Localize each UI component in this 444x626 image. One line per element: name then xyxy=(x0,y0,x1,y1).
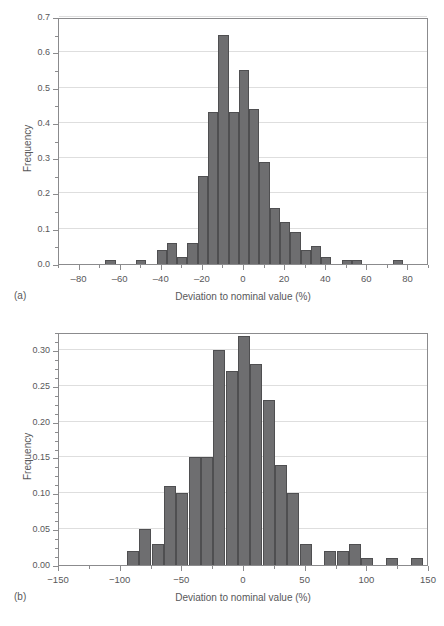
histogram-bar xyxy=(218,35,228,264)
y-tick xyxy=(53,124,58,125)
histogram-bar xyxy=(321,257,331,264)
x-tick xyxy=(120,566,121,571)
histogram-bar xyxy=(157,250,167,264)
x-tick xyxy=(325,265,326,270)
y-tick-label: 0.00 xyxy=(10,561,50,570)
x-tick-label: −100 xyxy=(95,575,145,585)
histogram-bar xyxy=(127,551,139,565)
x-tick xyxy=(428,566,429,571)
y-tick-label: 0.6 xyxy=(10,48,50,57)
y-tick-minor xyxy=(55,521,58,522)
y-tick-minor xyxy=(55,36,58,37)
x-tick-minor xyxy=(58,265,59,268)
histogram-bar xyxy=(337,551,349,565)
histogram-bar xyxy=(259,162,269,264)
y-tick-label: 0.25 xyxy=(10,382,50,391)
histogram-bar xyxy=(239,70,249,264)
x-tick-label: −50 xyxy=(156,575,206,585)
histogram-bar xyxy=(411,558,423,565)
y-tick xyxy=(53,351,58,352)
y-tick-minor xyxy=(55,212,58,213)
x-tick xyxy=(366,265,367,270)
x-tick-minor xyxy=(274,566,275,569)
histogram-bar xyxy=(208,112,218,264)
y-tick-label: 0.10 xyxy=(10,489,50,498)
x-tick xyxy=(407,265,408,270)
histogram-bar xyxy=(386,558,398,565)
y-tick-label: 0.0 xyxy=(10,260,50,269)
x-tick xyxy=(181,566,182,571)
bar-series-b xyxy=(59,334,427,565)
y-tick xyxy=(53,53,58,54)
y-tick-label: 0.05 xyxy=(10,525,50,534)
x-axis-title-b: Deviation to nominal value (%) xyxy=(58,592,428,603)
y-tick-label: 0.2 xyxy=(10,189,50,198)
x-tick-minor xyxy=(151,566,152,569)
x-tick-minor xyxy=(428,265,429,268)
y-tick-minor xyxy=(55,557,58,558)
y-axis-title-a: Frequency xyxy=(22,124,33,171)
histogram-bar xyxy=(198,176,208,264)
histogram-bar xyxy=(164,486,176,565)
histogram-panel-a: 0.00.10.20.30.40.50.60.7 ‒80‒60‒40‒20020… xyxy=(0,0,444,313)
x-tick-label: 50 xyxy=(280,575,330,585)
x-tick-minor xyxy=(397,566,398,569)
y-tick xyxy=(53,530,58,531)
x-tick-label: 150 xyxy=(403,575,444,585)
y-tick-minor xyxy=(55,512,58,513)
x-tick-label: 80 xyxy=(382,274,432,284)
x-tick-minor xyxy=(264,265,265,268)
histogram-bar xyxy=(287,493,299,565)
y-tick-minor xyxy=(55,71,58,72)
figure-sheet: 0.00.10.20.30.40.50.60.7 ‒80‒60‒40‒20020… xyxy=(0,0,444,626)
y-tick-minor xyxy=(55,142,58,143)
y-tick-minor xyxy=(55,548,58,549)
histogram-bar xyxy=(250,364,262,565)
panel-tag-a: (a) xyxy=(14,290,26,301)
x-tick-minor xyxy=(336,566,337,569)
y-tick-minor xyxy=(55,467,58,468)
y-tick xyxy=(53,458,58,459)
histogram-bar xyxy=(290,232,300,264)
y-tick xyxy=(53,18,58,19)
x-tick xyxy=(161,265,162,270)
y-tick xyxy=(53,423,58,424)
y-tick-minor xyxy=(55,405,58,406)
histogram-bar xyxy=(349,544,361,566)
y-tick-minor xyxy=(55,539,58,540)
x-tick-label: 0 xyxy=(218,575,268,585)
histogram-bar xyxy=(342,260,352,264)
histogram-bar xyxy=(275,465,287,565)
y-tick-minor xyxy=(55,396,58,397)
y-tick-minor xyxy=(55,342,58,343)
y-tick xyxy=(53,89,58,90)
histogram-bar xyxy=(324,551,336,565)
x-tick xyxy=(243,265,244,270)
x-tick-minor xyxy=(346,265,347,268)
x-tick-minor xyxy=(222,265,223,268)
histogram-bar xyxy=(177,257,187,264)
y-tick-minor xyxy=(55,476,58,477)
x-tick-minor xyxy=(89,566,90,569)
histogram-bar xyxy=(213,350,225,565)
x-tick xyxy=(202,265,203,270)
y-tick xyxy=(53,230,58,231)
x-tick-label: 100 xyxy=(341,575,391,585)
x-tick xyxy=(79,265,80,270)
y-tick-minor xyxy=(55,106,58,107)
y-tick-minor xyxy=(55,378,58,379)
histogram-bar xyxy=(189,457,201,565)
x-tick xyxy=(58,566,59,571)
histogram-bar xyxy=(229,112,239,264)
histogram-bar xyxy=(301,250,311,264)
histogram-bar xyxy=(270,208,280,264)
histogram-bar xyxy=(393,260,403,264)
x-tick-minor xyxy=(99,265,100,268)
plot-area-b xyxy=(58,333,428,566)
y-tick-label: 0.20 xyxy=(10,418,50,427)
histogram-bar xyxy=(152,544,164,566)
y-tick-minor xyxy=(55,485,58,486)
y-tick-minor xyxy=(55,177,58,178)
y-tick-minor xyxy=(55,432,58,433)
histogram-bar xyxy=(226,371,238,565)
